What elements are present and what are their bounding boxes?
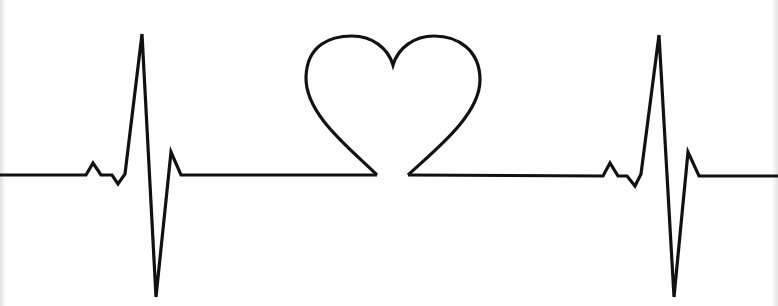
- left-ecg-pulse-icon: [0, 34, 377, 297]
- heartbeat-line-art: [0, 0, 778, 306]
- heart-icon: [306, 36, 480, 175]
- right-ecg-pulse-icon: [408, 35, 778, 297]
- heartbeat-illustration: [0, 0, 778, 306]
